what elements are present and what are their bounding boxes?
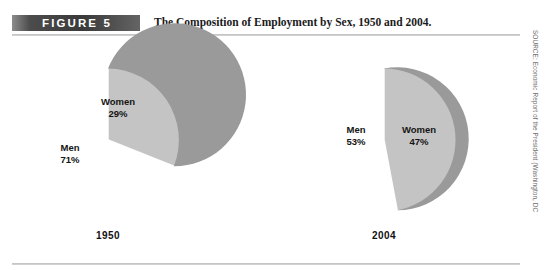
pie-label-women-1950: Women 29% [87,96,149,119]
pie-label-men-value-1950: 71% [44,154,96,166]
pie-label-women-value-2004: 47% [388,136,450,148]
footer-divider [12,263,520,265]
figure-number-badge: FIGURE 5 [12,15,140,31]
pie-chart-2004: Men 53% Women 47% [308,64,460,216]
pie-chart-1950: Women 29% Men 71% [32,64,184,216]
pie-label-women-value-1950: 29% [87,108,149,120]
pie-label-men-name-2004: Men [347,124,366,135]
pie-year-label-1950: 1950 [68,230,148,241]
pie-label-men-2004: Men 53% [330,124,382,147]
figure-header: FIGURE 5 The Composition of Employment b… [12,15,520,31]
pie-year-label-2004: 2004 [344,230,424,241]
source-note: SOURCE: Economic Report of the President… [532,30,539,262]
pie-graphic-2004: Men 53% Women 47% [308,64,460,216]
pie-label-men-name-1950: Men [61,142,80,153]
header-divider [12,34,520,36]
figure-container: FIGURE 5 The Composition of Employment b… [0,0,549,270]
pie-label-women-name-2004: Women [402,124,436,135]
pie-svg-1950 [32,64,184,216]
pie-graphic-1950: Women 29% Men 71% [32,64,184,216]
pie-label-men-value-2004: 53% [330,136,382,148]
pie-label-men-1950: Men 71% [44,142,96,165]
pie-label-women-name-1950: Women [101,96,135,107]
pie-label-women-2004: Women 47% [388,124,450,147]
